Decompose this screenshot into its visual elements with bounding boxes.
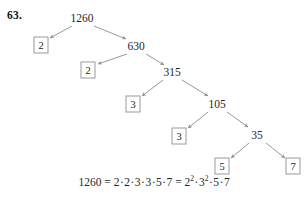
tree-arrow [98,54,127,64]
tree-node-105: 105 [208,98,225,111]
power-term: 5 [213,176,219,188]
factor-term: 7 [167,176,173,188]
prime-factor-box-5: 5 [215,158,230,175]
tree-arrow [182,80,208,96]
tree-arrow [266,143,285,158]
tree-arrow [94,26,126,39]
prime-factor-box-2: 2 [81,62,96,79]
factor-term: 2 [124,176,130,188]
tree-arrow [231,143,249,158]
tree-node-35: 35 [251,129,263,142]
tree-node-630: 630 [127,40,144,53]
power-term: 22 [185,176,195,188]
prime-factor-box-3: 3 [126,96,141,113]
tree-arrow [227,112,248,127]
tree-arrow [50,26,72,38]
prime-factor-box-7: 7 [286,158,301,175]
tree-edges-layer [0,0,308,197]
tree-node-1260: 1260 [71,12,94,25]
power-term: 7 [224,176,230,188]
tree-arrow [188,112,208,128]
power-term: 32 [199,176,209,188]
factor-tree-figure: 63. 126063031510535223357 1260 = 2·2·3·3… [0,0,308,197]
prime-factor-box-3: 3 [172,128,187,145]
factorization-equation: 1260 = 2·2·3·3·5·7 = 22·32·5·7 [78,175,229,189]
tree-arrow [146,54,164,65]
times-dot: · [194,176,199,188]
tree-node-315: 315 [163,66,180,79]
prime-factor-box-2: 2 [34,37,49,54]
factor-term: 3 [145,176,151,188]
tree-arrow [142,80,163,96]
